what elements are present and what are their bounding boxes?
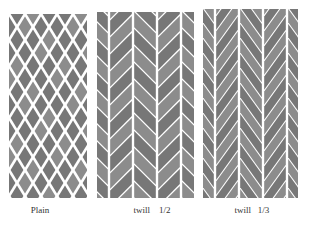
twill-1-3-label: twill 1/3 (235, 205, 270, 215)
twill-1-3-panel (203, 9, 298, 198)
twill-1-2-label: twill 1/2 (133, 205, 170, 215)
twill-1-2-panel (97, 12, 194, 198)
plain-weave-panel (9, 14, 87, 198)
plain-label: Plain (31, 205, 50, 215)
